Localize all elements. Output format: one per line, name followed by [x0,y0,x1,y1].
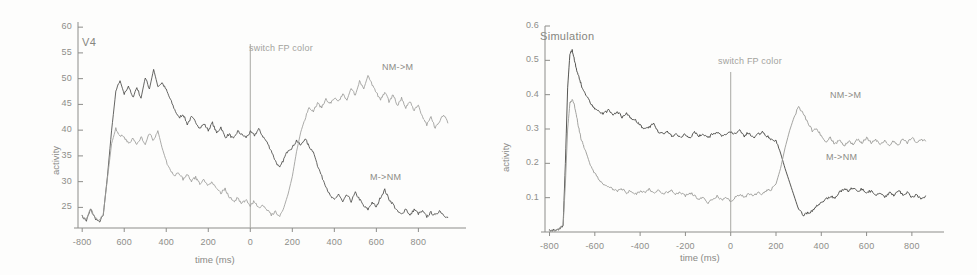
x-tick-label: 400 [148,237,184,247]
x-tick-label: -800 [64,237,100,247]
x-tick-label: 400 [316,237,352,247]
panel-v4: V4 activity time (ms) switch FP color NM… [0,0,490,275]
x-tick-label: -800 [532,241,568,251]
panel-simulation: Simulation activity time (ms) switch FP … [490,0,977,275]
plot-canvas-simulation [490,0,977,275]
y-tick-label: 50 [44,73,72,83]
y-tick-label: 0.4 [511,89,539,99]
plot-canvas-v4 [0,0,490,275]
x-tick-label: 600 [849,241,885,251]
y-tick-label: 0.1 [511,192,539,202]
x-tick-label: 400 [803,241,839,251]
y-tick-label: 30 [44,176,72,186]
x-tick-label: -400 [622,241,658,251]
y-tick-label: 0.2 [511,157,539,167]
y-tick-label: 0.3 [511,123,539,133]
y-tick-label: 55 [44,47,72,57]
x-tick-label: 0 [713,241,749,251]
x-tick-label: 600 [358,237,394,247]
x-tick-label: -200 [667,241,703,251]
x-tick-label: -600 [577,241,613,251]
y-tick-label: 0.6 [511,20,539,30]
x-tick-label: 200 [274,237,310,247]
x-tick-label: 200 [190,237,226,247]
y-tick-label: 40 [44,124,72,134]
figure-two-panel-activity: V4 activity time (ms) switch FP color NM… [0,0,977,275]
y-tick-label: 25 [44,201,72,211]
x-tick-label: 800 [894,241,930,251]
y-tick-label: 45 [44,98,72,108]
x-tick-label: 0 [232,237,268,247]
y-tick-label: 35 [44,150,72,160]
y-tick-label: 60 [44,21,72,31]
x-tick-label: 800 [400,237,436,247]
x-tick-label: 600 [106,237,142,247]
x-tick-label: 200 [758,241,794,251]
y-tick-label: 0.5 [511,54,539,64]
